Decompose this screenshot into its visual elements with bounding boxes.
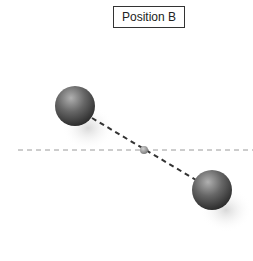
lower-right-sphere — [192, 170, 232, 210]
molecule-diagram — [0, 0, 253, 261]
center-point — [140, 146, 148, 154]
upper-left-sphere — [55, 86, 95, 126]
sphere-shadows — [62, 106, 252, 232]
